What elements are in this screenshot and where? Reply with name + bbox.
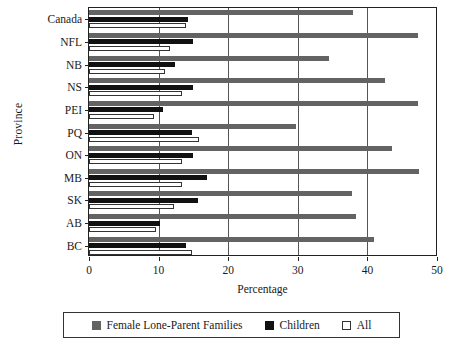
- y-axis-tick: [85, 200, 89, 201]
- bar: [89, 237, 374, 242]
- y-axis-category-label: AB: [66, 217, 82, 229]
- legend-label: All: [357, 319, 372, 331]
- bar-group: [89, 124, 438, 142]
- bar: [89, 39, 193, 44]
- bar: [89, 175, 207, 180]
- plot-area: 01020304050CanadaNFLNBNSPEIPQONMBSKABBC: [88, 7, 437, 256]
- bar: [89, 137, 199, 142]
- y-axis-tick: [85, 65, 89, 66]
- y-axis-category-label: ON: [65, 149, 82, 161]
- bar-group: [89, 214, 438, 232]
- x-axis-tick-label: 50: [417, 264, 457, 276]
- legend-swatch-white: [342, 321, 351, 330]
- y-axis-tick: [85, 42, 89, 43]
- bar: [89, 91, 182, 96]
- legend-swatch-black: [265, 321, 274, 330]
- y-axis-category-label: NB: [66, 59, 82, 71]
- y-axis-category-label: Canada: [48, 13, 82, 25]
- y-axis-category-label: PEI: [65, 104, 82, 116]
- bar: [89, 130, 192, 135]
- bar: [89, 85, 193, 90]
- y-axis-tick: [85, 87, 89, 88]
- y-axis-category-label: SK: [67, 194, 82, 206]
- bar: [89, 204, 174, 209]
- y-axis-category-label: MB: [64, 172, 82, 184]
- x-axis-tick-label: 20: [208, 264, 248, 276]
- bar: [89, 221, 160, 226]
- legend-label: Children: [280, 319, 320, 331]
- bar: [89, 250, 192, 255]
- legend-swatch-gray: [92, 321, 101, 330]
- bar-group: [89, 33, 438, 51]
- x-axis-tick-label: 40: [347, 264, 387, 276]
- bar: [89, 23, 186, 28]
- bar: [89, 198, 198, 203]
- bar: [89, 62, 175, 67]
- bar: [89, 33, 418, 38]
- x-axis-tick: [437, 257, 438, 261]
- bar: [89, 146, 392, 151]
- x-axis-tick-label: 30: [278, 264, 318, 276]
- x-axis-tick: [298, 257, 299, 261]
- bar: [89, 214, 356, 219]
- y-axis-category-label: BC: [67, 240, 82, 252]
- x-axis-tick: [367, 257, 368, 261]
- bar-chart-figure: Province 01020304050CanadaNFLNBNSPEIPQON…: [0, 0, 463, 350]
- legend-label: Female Lone-Parent Families: [107, 319, 243, 331]
- bar: [89, 124, 296, 129]
- bar-group: [89, 10, 438, 28]
- bar: [89, 10, 353, 15]
- bar-group: [89, 169, 438, 187]
- y-axis-category-label: NS: [67, 81, 82, 93]
- y-axis-tick: [85, 223, 89, 224]
- bar: [89, 243, 186, 248]
- bar: [89, 153, 193, 158]
- y-axis-title: Province: [12, 84, 24, 164]
- bar: [89, 191, 352, 196]
- bar: [89, 101, 418, 106]
- legend-item: Children: [265, 319, 320, 331]
- x-axis-tick-label: 10: [139, 264, 179, 276]
- y-axis-tick: [85, 178, 89, 179]
- bar-group: [89, 237, 438, 255]
- y-axis-tick: [85, 19, 89, 20]
- y-axis-category-label: PQ: [67, 127, 82, 139]
- legend-item: All: [342, 319, 372, 331]
- x-axis-tick: [89, 257, 90, 261]
- y-axis-tick: [85, 133, 89, 134]
- bar: [89, 169, 419, 174]
- bar: [89, 182, 182, 187]
- bar: [89, 114, 154, 119]
- y-axis-category-label: NFL: [60, 36, 82, 48]
- bar: [89, 227, 156, 232]
- y-axis-tick: [85, 110, 89, 111]
- legend-item: Female Lone-Parent Families: [92, 319, 243, 331]
- bar: [89, 107, 163, 112]
- chart-legend: Female Lone-Parent FamiliesChildrenAll: [63, 312, 400, 338]
- x-axis-tick: [159, 257, 160, 261]
- x-axis-title: Percentage: [88, 283, 437, 295]
- bar: [89, 46, 170, 51]
- x-axis-tick: [228, 257, 229, 261]
- bar: [89, 159, 182, 164]
- bar-group: [89, 146, 438, 164]
- bar: [89, 78, 385, 83]
- bar-group: [89, 56, 438, 74]
- bar: [89, 56, 329, 61]
- bar-group: [89, 191, 438, 209]
- x-axis-tick-label: 0: [69, 264, 109, 276]
- bar-group: [89, 101, 438, 119]
- bar: [89, 69, 165, 74]
- y-axis-tick: [85, 246, 89, 247]
- bar: [89, 17, 188, 22]
- y-axis-tick: [85, 155, 89, 156]
- bar-group: [89, 78, 438, 96]
